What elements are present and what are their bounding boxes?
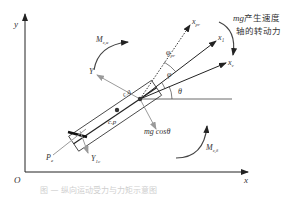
center-of-pressure-point: [115, 108, 119, 112]
theta-label: θ: [178, 87, 182, 96]
xpr-label: xpr: [191, 17, 200, 27]
lower-moment-arrow: [176, 126, 207, 158]
thrust-label: Pe: [45, 153, 54, 163]
phi-label: φ: [167, 70, 172, 79]
x1-label: x₁: [217, 33, 225, 42]
mg-cos-theta-arrow: [140, 99, 156, 129]
theta-arc: [169, 86, 172, 99]
cp-label: c.p: [108, 118, 117, 126]
phi-arc: [162, 83, 165, 89]
missile-force-diagram: y x O x₁ xv xpr θ φ φpr Y mg cosθ c.g c.…: [0, 0, 293, 197]
y-axis-label: y: [13, 19, 18, 29]
center-of-gravity-point: [138, 97, 142, 101]
xpr-axis-arrow: [140, 25, 190, 99]
missile-body: [69, 80, 162, 151]
xv-axis-arrow: [140, 63, 226, 99]
annotation-line2: 轴的转动力: [236, 26, 281, 36]
Y-axis-arrow: [97, 75, 140, 99]
mg-cos-theta-label: mg cosθ: [144, 127, 170, 136]
xv-label: xv: [227, 58, 235, 68]
origin-label: O: [14, 175, 21, 185]
control-force-label: Y1c: [91, 154, 101, 164]
figure-caption: 图 — 纵向运动受力与力矩示意图: [40, 185, 157, 195]
phi-pr-label: φpr: [166, 48, 175, 58]
lower-moment-label: Mz,δ: [205, 143, 219, 154]
upper-moment-arrow: [94, 42, 128, 70]
annotation-line1: mg产生速度: [233, 13, 280, 23]
x-axis-label: x: [243, 175, 248, 185]
upper-moment-label: Mz,α: [95, 35, 109, 46]
